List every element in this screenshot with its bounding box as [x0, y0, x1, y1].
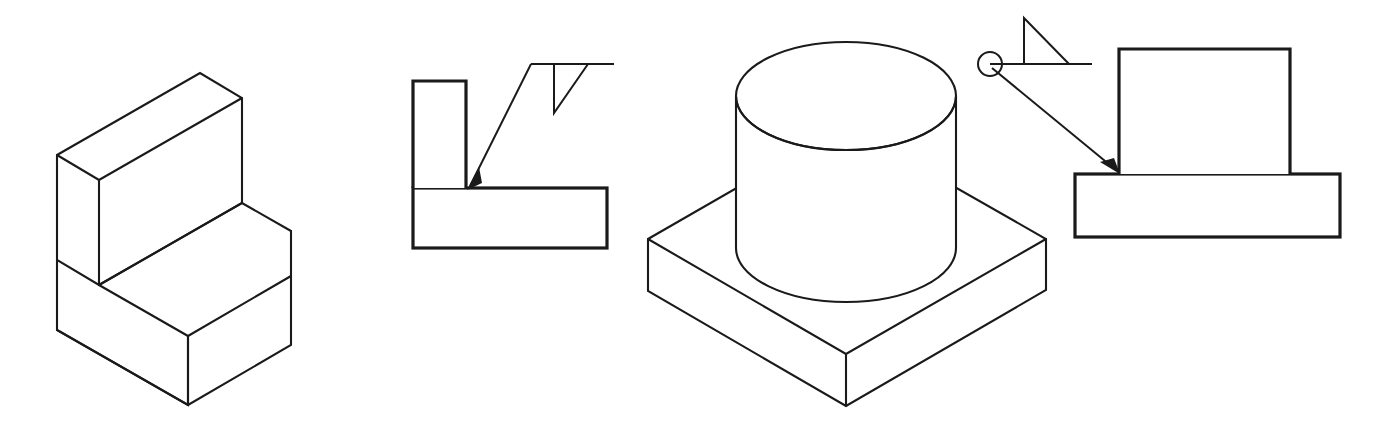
technical-drawing-canvas [0, 0, 1388, 439]
fillet-weld-triangle-icon-above [1024, 18, 1069, 64]
bottom-plate-fill [413, 188, 607, 248]
drawing-sheet [0, 0, 1388, 439]
figure-isometric-seat-block [57, 73, 291, 405]
section-base-plate-fill [1075, 174, 1340, 237]
leader-line-all-around [992, 68, 1116, 170]
figure-section-boss-on-plate-all-around [978, 18, 1340, 237]
section-boss-fill [1119, 49, 1290, 174]
figure-isometric-cylinder-on-base [648, 42, 1046, 406]
fillet-weld-triangle-icon [554, 64, 588, 113]
figure-section-tee-joint-fillet [413, 64, 614, 248]
vertical-plate-fill [413, 81, 466, 188]
leader-line [470, 64, 531, 186]
